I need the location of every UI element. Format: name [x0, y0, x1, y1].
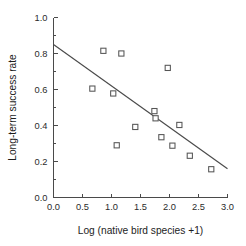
x-tick-label-1: 0.5	[76, 202, 89, 212]
data-point-1	[101, 48, 106, 53]
y-tick-label-0: 0.0	[35, 193, 48, 203]
y-tick-label-4: 0.8	[35, 49, 48, 59]
regression-trendline	[54, 45, 228, 169]
plot-axes	[54, 18, 228, 198]
data-point-7	[153, 116, 158, 121]
x-tick-label-5: 2.5	[192, 202, 205, 212]
chart-figure: 0.00.51.01.52.02.53.00.00.20.40.60.81.0L…	[0, 0, 246, 246]
data-point-8	[159, 135, 164, 140]
y-axis-title: Long-term success rate	[7, 54, 18, 161]
data-point-13	[209, 167, 214, 172]
data-point-12	[187, 153, 192, 158]
data-point-3	[114, 143, 119, 148]
y-tick-label-1: 0.2	[35, 157, 48, 167]
data-point-9	[165, 65, 170, 70]
y-tick-label-5: 1.0	[35, 13, 48, 23]
data-point-6	[152, 109, 157, 114]
x-tick-label-6: 3.0	[221, 202, 234, 212]
data-point-11	[177, 122, 182, 127]
scatter-plot: 0.00.51.01.52.02.53.00.00.20.40.60.81.0L…	[0, 0, 246, 246]
data-point-5	[133, 124, 138, 129]
data-points-group	[90, 48, 214, 172]
x-tick-label-0: 0.0	[47, 202, 60, 212]
x-axis-title: Log (native bird species +1)	[78, 225, 203, 236]
x-tick-label-4: 2.0	[163, 202, 176, 212]
x-tick-label-3: 1.5	[134, 202, 147, 212]
y-tick-label-3: 0.6	[35, 85, 48, 95]
y-tick-label-2: 0.4	[35, 121, 48, 131]
trendline	[54, 45, 228, 169]
data-point-2	[111, 91, 116, 96]
data-point-10	[170, 143, 175, 148]
data-point-4	[119, 51, 124, 56]
data-point-0	[90, 86, 95, 91]
x-tick-label-2: 1.0	[105, 202, 118, 212]
axis-labels-group: 0.00.51.01.52.02.53.00.00.20.40.60.81.0L…	[7, 13, 234, 236]
